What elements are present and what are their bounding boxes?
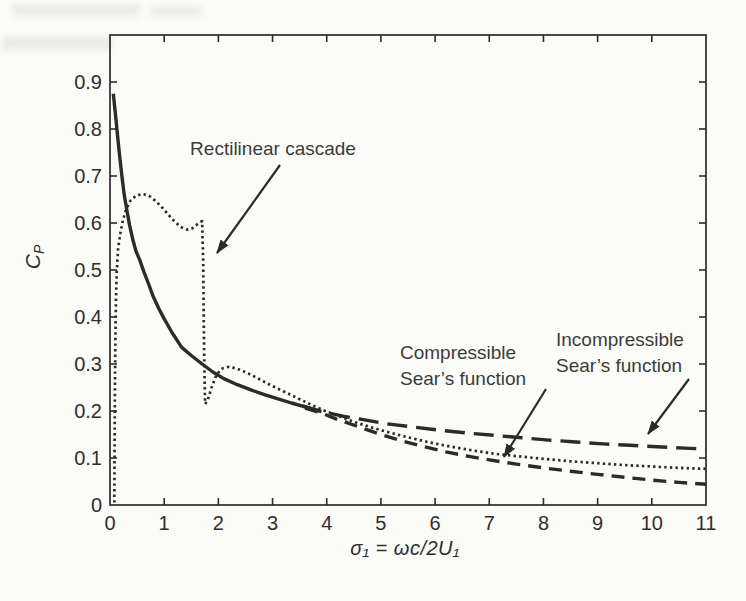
y-axis-label-subscript: P (31, 245, 47, 254)
annotation-text-line: Sear’s function (556, 355, 682, 376)
annotation-rectilinear-cascade: Rectilinear cascade (158, 136, 388, 162)
annotation-text-line: Compressible (400, 342, 516, 363)
axes-frame (110, 35, 706, 505)
scanned-figure-page: CP σ₁ = ωc/2U₁ Rectilinear cascade Compr… (0, 0, 746, 601)
annotation-compressible-sears: Compressible Sear’s function (400, 340, 526, 392)
annotation-text-line: Rectilinear cascade (190, 138, 356, 159)
y-tick-label: 0.4 (38, 305, 102, 329)
x-tick-label: 8 (538, 511, 549, 535)
x-tick-label: 11 (696, 511, 717, 535)
x-tick-label: 3 (267, 511, 278, 535)
annotation-arrow-compressible-sears (504, 389, 546, 457)
x-axis-label: σ₁ = ωc/2U₁ (280, 537, 530, 560)
x-tick-label: 4 (321, 511, 332, 535)
y-tick-label: 0.7 (38, 164, 102, 188)
x-tick-label: 10 (641, 511, 663, 535)
x-tick-label: 5 (375, 511, 386, 535)
y-tick-label: 0.9 (38, 70, 102, 94)
y-tick-label: 0.3 (38, 352, 102, 376)
y-tick-label: 0.6 (38, 211, 102, 235)
x-tick-label: 9 (592, 511, 603, 535)
y-tick-label: 0.8 (38, 117, 102, 141)
y-tick-label: 0.1 (38, 446, 102, 470)
series-incompressible-sear-s-function (302, 406, 706, 449)
x-tick-label: 6 (430, 511, 441, 535)
x-tick-label: 1 (159, 511, 170, 535)
annotation-arrow-incompressible-sears (648, 379, 689, 434)
y-tick-label: 0.2 (38, 399, 102, 423)
x-tick-label: 0 (104, 511, 115, 535)
annotation-text-line: Incompressible (556, 329, 684, 350)
x-tick-label: 2 (213, 511, 224, 535)
y-tick-label: 0.5 (38, 258, 102, 282)
annotation-arrow-rectilinear-cascade (217, 165, 280, 253)
annotation-text-line: Sear’s function (400, 368, 526, 389)
annotation-incompressible-sears: Incompressible Sear’s function (556, 327, 684, 379)
x-tick-label: 7 (484, 511, 495, 535)
y-tick-label: 0 (38, 493, 102, 517)
